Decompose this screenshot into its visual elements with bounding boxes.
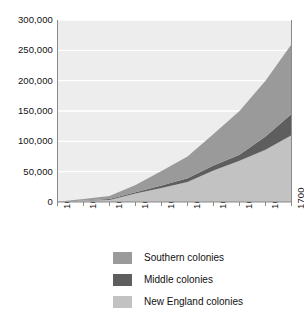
legend-item[interactable]: Southern colonies [112,250,302,265]
legend-label: Middle colonies [144,274,213,285]
legend-swatch [112,295,133,309]
legend-swatch [112,273,133,287]
legend-item[interactable]: Middle colonies [112,272,302,287]
legend-swatch [112,251,133,265]
stacked-area-chart: 300,000250,000200,000150,000100,00050,00… [0,0,304,324]
legend-label: Southern colonies [144,252,224,263]
legend: Southern coloniesMiddle coloniesNew Engl… [112,250,302,316]
legend-item[interactable]: New England colonies [112,294,302,309]
axis-ticks [58,202,292,206]
legend-label: New England colonies [144,296,243,307]
